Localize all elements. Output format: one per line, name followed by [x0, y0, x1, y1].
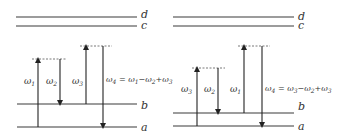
omega3-label: ω3	[181, 84, 192, 95]
level-c-label: c	[298, 19, 304, 32]
level-b-label: b	[298, 100, 305, 113]
omega2-label: ω2	[46, 76, 57, 87]
level-a-label: a	[298, 120, 305, 133]
level-a-label: a	[141, 121, 148, 134]
omega4-equation: ω4 = ω3−ω2+ω3	[265, 84, 332, 94]
energy-level-diagram: d c b a ω1 ω2 ω3 ω4 = ω1−ω2+ω3 d c b a ω…	[0, 0, 342, 136]
level-c-label: c	[141, 19, 147, 32]
left-panel: d c b a ω1 ω2 ω3 ω4 = ω1−ω2+ω3	[16, 8, 173, 134]
omega4-equation: ω4 = ω1−ω2+ω3	[106, 75, 173, 85]
right-panel: d c b a ω3 ω2 ω1 ω4 = ω3−ω2+ω3	[173, 10, 332, 133]
omega2-label: ω2	[204, 84, 215, 95]
level-b-label: b	[141, 99, 148, 112]
omega1-label: ω1	[24, 76, 35, 87]
omega3-label: ω3	[72, 76, 83, 87]
omega1-label: ω1	[230, 84, 241, 95]
